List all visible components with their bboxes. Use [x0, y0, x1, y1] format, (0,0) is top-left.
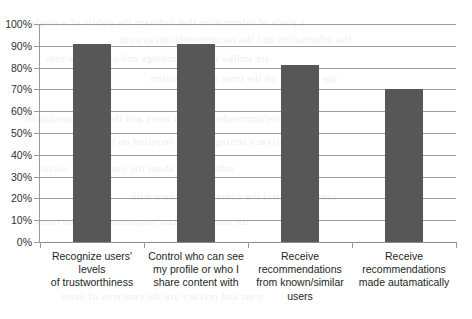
category-label-receive-recommendations-from-known-similar-users: Receive recommendations from known/simil…: [248, 250, 352, 303]
category-label-control-who-can-see-my-profile: Control who can see my profile or who I …: [144, 250, 248, 290]
category-label-line: of trustworthiness: [40, 276, 144, 289]
y-axis-tick-label: 70%: [0, 84, 32, 95]
y-axis-tick-label: 30%: [0, 172, 32, 183]
y-axis-tick-label: 50%: [0, 128, 32, 139]
plot-area: [40, 24, 456, 242]
y-axis-tick-label: 60%: [0, 106, 32, 117]
category-label-line: made autamatically: [352, 276, 456, 289]
y-axis-tick-label: 90%: [0, 41, 32, 52]
category-label-recognize-users-levels-of-trustworthiness: Recognize users' levels of trustworthine…: [40, 250, 144, 290]
category-label-line: Receive: [352, 250, 456, 263]
x-axis-tick: [40, 242, 41, 248]
category-label-line: from known/similar: [248, 276, 352, 289]
gridline-100: [40, 24, 456, 25]
bar-control-who-can-see-my-profile[interactable]: [177, 44, 215, 242]
x-axis-tick: [144, 242, 145, 248]
category-label-line: my profile or who I: [144, 263, 248, 276]
bar-recognize-users-levels-of-trustworthiness[interactable]: [73, 44, 111, 242]
y-axis-tick-label: 0%: [0, 237, 32, 248]
category-label-receive-recommendations-made-autamatically: Receive recommendations made autamatical…: [352, 250, 456, 290]
x-axis-tick: [456, 242, 457, 248]
category-label-line: Receive: [248, 250, 352, 263]
x-axis-category-labels: Recognize users' levels of trustworthine…: [40, 250, 456, 316]
y-axis-tick-label: 40%: [0, 150, 32, 161]
category-label-line: Recognize users' levels: [40, 250, 144, 276]
category-label-line: Control who can see: [144, 250, 248, 263]
bar-chart: 100% 90% 80% 70% 60% 50% 40% 30% 20% 10%…: [0, 0, 472, 319]
category-label-line: recommendations: [248, 263, 352, 276]
category-label-line: recommendations: [352, 263, 456, 276]
y-axis-labels: 100% 90% 80% 70% 60% 50% 40% 30% 20% 10%…: [0, 0, 32, 319]
category-label-line: users: [248, 290, 352, 303]
y-axis-tick-label: 100%: [0, 19, 32, 30]
y-axis-tick-label: 80%: [0, 63, 32, 74]
x-axis-tick: [248, 242, 249, 248]
category-label-line: share content with: [144, 276, 248, 289]
y-axis-tick-label: 20%: [0, 193, 32, 204]
bar-receive-recommendations-made-autamatically[interactable]: [385, 89, 423, 242]
bar-receive-recommendations-from-known-similar-users[interactable]: [281, 65, 319, 242]
x-axis-tick: [352, 242, 353, 248]
y-axis-tick-label: 10%: [0, 215, 32, 226]
